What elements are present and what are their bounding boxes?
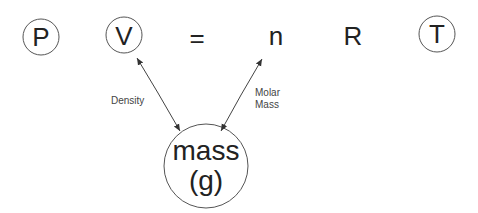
symbol-equals: = (189, 25, 204, 51)
mass-unit: (g) (173, 166, 240, 196)
molar-mass-label-line2: Mass (255, 99, 280, 111)
density-label: Density (111, 95, 144, 107)
symbol-r: R (344, 23, 363, 49)
mass-node: mass (g) (173, 136, 240, 196)
density-arrow (137, 58, 158, 93)
symbol-v: V (115, 23, 132, 49)
mass-label: mass (173, 136, 240, 166)
density-arrow-lower (158, 93, 180, 131)
molar-mass-arrow-lower (221, 95, 241, 131)
molar-mass-label: Molar Mass (255, 87, 280, 111)
symbol-p: P (32, 24, 49, 50)
symbol-t: T (429, 21, 445, 47)
symbol-n: n (269, 23, 283, 49)
molar-mass-label-line1: Molar (255, 87, 280, 99)
